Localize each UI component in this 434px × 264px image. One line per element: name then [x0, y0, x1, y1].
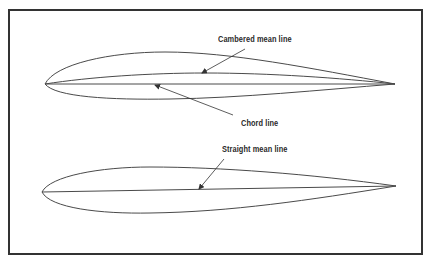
camber-arrow: [202, 49, 245, 73]
symmetric-airfoil: [42, 159, 396, 213]
cambered-airfoil: [45, 49, 395, 115]
chord-arrow: [155, 85, 233, 115]
airfoil-diagram: [0, 0, 434, 264]
airfoil-upper-surface: [42, 167, 396, 192]
mean-line: [42, 186, 396, 192]
airfoil-lower-surface: [45, 84, 395, 99]
airfoil-lower-surface: [42, 186, 396, 213]
cambered-mean-line-label: Cambered mean line: [218, 34, 292, 44]
straight-mean-line-label: Straight mean line: [222, 144, 287, 154]
chord-line-label: Chord line: [241, 118, 278, 128]
mean-line-arrow: [199, 159, 224, 189]
